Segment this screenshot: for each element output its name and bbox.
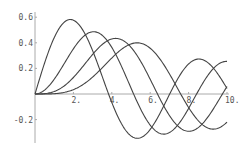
y-tick: 0.2 [19, 64, 37, 73]
curves [35, 20, 227, 139]
axes [35, 12, 229, 143]
y-tick: 0.4 [19, 39, 37, 48]
y-tick-label: 0.4 [19, 39, 34, 48]
y-tick-label: 0.2 [19, 64, 34, 73]
y-tick: -0.2 [14, 116, 37, 125]
y-tick-label: 0.6 [19, 13, 34, 22]
y-tick: 0.6 [19, 13, 37, 22]
series-line-j3 [35, 38, 227, 131]
y-tick-label: -0.2 [14, 116, 33, 125]
x-tick: 10. [225, 92, 239, 105]
bessel-plot: 2.4.6.8.10. 0.60.40.2-0.2 [0, 0, 244, 151]
x-tick-label: 10. [225, 96, 239, 105]
x-tick-label: 6. [148, 96, 158, 105]
y-ticks: 0.60.40.2-0.2 [14, 13, 37, 124]
x-tick-label: 2. [71, 96, 81, 105]
